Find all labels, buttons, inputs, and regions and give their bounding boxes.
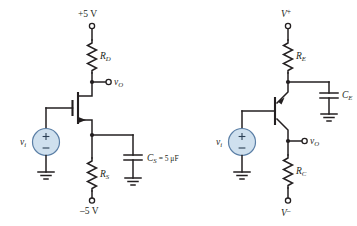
right-emitter-resistor-body: [284, 40, 293, 73]
left-input-source-label: vi: [20, 137, 26, 148]
right-output-label: vO: [310, 136, 319, 147]
right-input-source-label: vi: [216, 137, 222, 148]
left-positive-supply-label: +5 V: [78, 9, 97, 19]
right-collector-resistor-label: RC: [295, 166, 307, 177]
left-negative-supply-terminal: [89, 198, 94, 203]
left-drain-resistor-body: [88, 40, 97, 73]
right-emitter-resistor-label: RE: [295, 51, 307, 62]
right-negative-supply-terminal: [285, 198, 290, 203]
right-output-terminal: [302, 138, 307, 143]
right-positive-supply-terminal: [285, 23, 290, 28]
left-bypass-capacitor-label: CS = 5 μF: [147, 153, 179, 164]
left-mosfet-drain-lead: [78, 82, 92, 96]
left-input-ground-symbol: [38, 172, 54, 179]
right-bypass-capacitor-label: CE: [342, 90, 353, 101]
left-drain-resistor-label: RD: [99, 51, 111, 62]
left-source-resistor-body: [88, 158, 97, 191]
left-input-source-circle: [33, 129, 60, 156]
circuit-figure: +5 V –5 V RD RS CS = 5 μF vi vO: [0, 0, 357, 226]
right-cap-ground-symbol: [321, 114, 337, 121]
left-output-label: vO: [114, 77, 123, 88]
left-positive-supply-terminal: [89, 23, 94, 28]
right-collector-resistor-body: [284, 155, 293, 188]
left-output-terminal: [106, 79, 111, 84]
right-input-source-circle: [229, 129, 256, 156]
right-circuit: V+ V– RE RC CE vi vO: [216, 7, 353, 218]
left-circuit: +5 V –5 V RD RS CS = 5 μF vi vO: [20, 9, 179, 216]
left-negative-supply-label: –5 V: [79, 206, 99, 216]
left-source-resistor-label: RS: [99, 169, 110, 180]
right-input-ground-symbol: [234, 172, 250, 179]
right-bjt-collector-lead: [277, 119, 288, 141]
right-negative-supply-label: V–: [281, 206, 291, 218]
right-positive-supply-label: V+: [281, 7, 291, 19]
left-cap-ground-symbol: [125, 178, 141, 185]
left-mosfet-source-arrow: [79, 117, 86, 123]
